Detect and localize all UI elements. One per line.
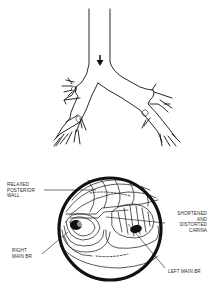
down-arrow-icon <box>97 55 104 66</box>
bronchial-tree-diagram <box>0 0 213 294</box>
label-relaxed-posterior-wall: RELAXED POSTERIOR WALL <box>7 182 35 199</box>
left-side-branches <box>54 78 86 146</box>
label-shortened-distorted-carina: SHORTENED AND DISTORTED CARINA <box>177 211 207 233</box>
trachea <box>76 9 153 90</box>
label-left-main-bronchus: LEFT MAIN BR <box>168 269 201 275</box>
bronchoscopic-view <box>59 178 161 280</box>
label-right-main-bronchus: RIGHT MAIN BR <box>12 248 32 259</box>
right-side-branches <box>142 84 180 146</box>
main-bronchi <box>56 83 176 142</box>
